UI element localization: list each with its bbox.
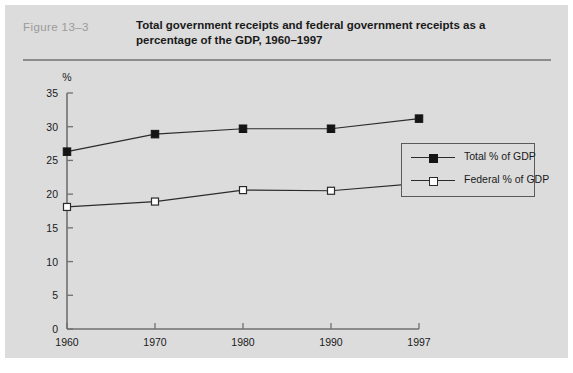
data-point-marker: [151, 130, 159, 138]
x-tick-label: 1990: [319, 336, 343, 348]
data-point-marker: [328, 187, 335, 194]
series-line-total: [67, 119, 419, 152]
y-tick-label: 25: [46, 154, 58, 166]
y-tick-label: 30: [46, 121, 58, 133]
data-point-marker: [64, 203, 71, 210]
x-tick-label: 1980: [231, 336, 255, 348]
data-point-marker: [327, 125, 335, 133]
legend-swatch-open-square: [411, 180, 455, 182]
y-tick-label: 35: [46, 87, 58, 99]
legend-label-total: Total % of GDP: [464, 150, 536, 162]
legend-item-total: Total % of GDP: [402, 147, 534, 169]
data-point-marker: [152, 198, 159, 205]
chart-series-layer: [63, 115, 423, 211]
y-tick-label: 5: [52, 289, 58, 301]
legend-label-federal: Federal % of GDP: [464, 173, 549, 185]
y-tick-label: 20: [46, 188, 58, 200]
data-point-marker: [239, 125, 247, 133]
y-axis-unit-label: %: [62, 71, 71, 83]
figure-panel: Figure 13–3 Total government receipts an…: [5, 5, 568, 358]
y-tick-label: 15: [46, 222, 58, 234]
x-tick-label: 1970: [143, 336, 167, 348]
x-axis-ticks: 19601970198019901997: [55, 323, 431, 348]
data-point-marker: [415, 115, 423, 123]
y-tick-label: 10: [46, 256, 58, 268]
y-tick-label: 0: [52, 323, 58, 335]
legend-item-federal: Federal % of GDP: [402, 170, 534, 192]
x-tick-label: 1997: [407, 336, 431, 348]
legend-swatch-filled-square: [411, 157, 455, 159]
chart-legend: Total % of GDP Federal % of GDP: [401, 143, 535, 197]
data-point-marker: [63, 148, 71, 156]
data-point-marker: [240, 187, 247, 194]
x-tick-label: 1960: [55, 336, 79, 348]
